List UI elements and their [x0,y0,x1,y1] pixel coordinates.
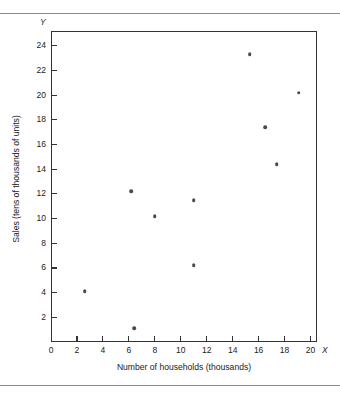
y-axis-tick-label-wrap: 6 [20,263,46,272]
data-point [192,264,196,268]
y-axis-title: Sales (tens of thousands of units) [11,79,21,279]
data-point [153,214,157,218]
plot-data-area [51,31,317,342]
y-axis-tick-label: 2 [24,313,46,322]
y-axis-symbol: Y [40,17,46,27]
y-axis-tick-label: 20 [24,91,46,100]
bottom-divider-rule [0,385,340,386]
x-axis-tick-label: 2 [65,345,89,355]
x-axis-tick-label: 8 [143,345,167,355]
y-axis-tick-label-wrap: 4 [20,288,46,297]
y-axis-tick-label-wrap: 24 [20,41,46,50]
y-axis-tick-label-wrap: 12 [20,189,46,198]
x-axis-tick-label: 18 [273,345,297,355]
y-axis-tick-label: 18 [24,115,46,124]
y-axis-tick-label-wrap: 20 [20,91,46,100]
data-point [248,53,252,57]
y-axis-tick-label-wrap: 10 [20,214,46,223]
data-point [130,190,134,194]
y-axis-tick-label: 10 [24,214,46,223]
x-axis-tick-label: 4 [91,345,115,355]
y-axis-tick-label-wrap: 18 [20,115,46,124]
data-point [83,290,87,294]
y-axis-tick-label: 12 [24,189,46,198]
x-axis-title: Number of households (thousands) [51,362,317,372]
y-axis-tick-label: 4 [24,288,46,297]
x-axis-tick-label: 20 [299,345,323,355]
y-axis-tick-label-wrap: 2 [20,313,46,322]
x-axis-symbol: X [322,345,328,355]
y-axis-tick-label: 8 [24,239,46,248]
y-axis-tick-label: 6 [24,263,46,272]
x-axis-tick-label: 14 [221,345,245,355]
x-axis-tick-label: 0 [39,345,63,355]
scatter-plot-figure: Y 24681012141618202224 02468101214161820… [0,14,340,384]
data-point [132,327,136,331]
x-axis-tick-label: 16 [247,345,271,355]
y-axis-tick-label: 24 [24,41,46,50]
x-axis-tick-label: 12 [195,345,219,355]
data-point [263,125,267,129]
data-point [275,162,279,166]
x-axis-tick-label: 10 [169,345,193,355]
y-axis-tick-label-wrap: 14 [20,165,46,174]
x-axis-tick-label: 6 [117,345,141,355]
data-point [297,91,301,95]
y-axis-tick-label: 16 [24,140,46,149]
y-axis-tick-label-wrap: 22 [20,66,46,75]
y-axis-tick-label: 22 [24,66,46,75]
y-axis-tick-label-wrap: 8 [20,239,46,248]
data-point [192,198,196,202]
y-axis-tick-label: 14 [24,165,46,174]
y-axis-tick-label-wrap: 16 [20,140,46,149]
